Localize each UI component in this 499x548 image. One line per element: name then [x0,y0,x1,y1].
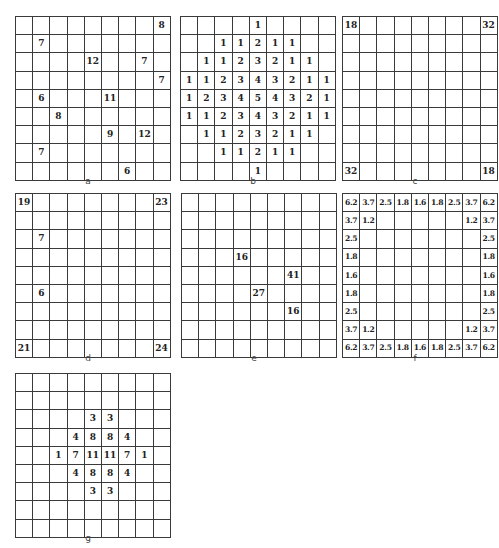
grid-cell: 2 [232,53,249,71]
grid-cell [153,464,170,482]
grid-cell [33,266,50,284]
grid-panel-a: 871277611891276 [15,16,171,181]
grid-cell [136,374,153,392]
grid-cell [480,126,497,144]
grid-cell: 2 [284,107,301,125]
grid-cell [233,321,250,339]
grid-cell [33,17,50,35]
grid-cell: 1 [284,35,301,53]
grid-row: 7 [16,144,171,162]
grid-cell [267,230,284,248]
grid-cell [33,53,50,71]
grid-cell: 2.5 [343,230,360,248]
grid-cell [119,410,136,428]
grid-cell [360,303,377,321]
grid-cell [446,71,463,89]
grid-cell: 23 [153,194,170,212]
grid-cell [302,321,319,339]
panel-label-f: f [342,353,488,363]
grid-cell [101,248,118,266]
grid-row: 4884 [16,464,171,482]
panel-label-c: c [342,176,488,186]
grid-cell [343,126,360,144]
grid-cell [50,501,67,519]
grid-cell [16,35,33,53]
grid-cell [216,266,233,284]
grid-cell [394,35,411,53]
grid-cell [411,321,428,339]
grid-cell: 3 [101,483,118,501]
grid-cell [233,230,250,248]
grid-cell [67,35,84,53]
grid-cell [84,303,101,321]
grid-cell [428,17,445,35]
grid-cell [394,212,411,230]
grid-cell [250,212,267,230]
grid-cell [33,392,50,410]
grid-cell [463,248,480,266]
grid-cell [33,194,50,212]
grid-cell: 41 [285,266,302,284]
grid-cell [33,410,50,428]
grid-cell [198,17,215,35]
grid-cell [428,107,445,125]
grid-cell [394,53,411,71]
grid-cell [153,35,170,53]
grid-cell [250,230,267,248]
grid-cell [411,284,428,302]
grid-cell [16,321,33,339]
grid-cell [319,303,336,321]
grid-cell: 1 [284,126,301,144]
grid-cell [119,107,136,125]
grid-cell: 1 [215,144,232,162]
grid-cell [216,284,233,302]
grid-row: 11211 [181,144,336,162]
grid-cell: 2.5 [480,230,497,248]
grid-cell [215,17,232,35]
grid-cell [16,392,33,410]
grid-cell [216,248,233,266]
grid-cell [360,284,377,302]
grid-cell [199,321,216,339]
grid-row: 3.71.21.23.7 [343,321,498,339]
grid-cell [50,321,67,339]
grid-cell: 1 [215,126,232,144]
grid-cell [16,107,33,125]
grid-cell [394,321,411,339]
grid-cell [153,89,170,107]
grid-cell [301,35,318,53]
grid-row: 6.23.72.51.81.61.82.53.76.2 [343,194,498,212]
grid-row: 7 [16,230,171,248]
grid-cell: 1.8 [394,194,411,212]
grid-cell [394,230,411,248]
grid-cell [16,266,33,284]
grid-row [343,89,498,107]
grid-row [343,71,498,89]
grid-row [343,107,498,125]
grid-cell [411,17,428,35]
grid-cell [319,230,336,248]
grid-cell [50,194,67,212]
grid-cell: 18 [343,17,360,35]
grid-cell [319,284,336,302]
grid-cell [233,284,250,302]
grid-cell: 1 [266,144,283,162]
grid-cell [343,89,360,107]
grid-cell [285,212,302,230]
grid-cell [377,321,394,339]
grid-row [16,248,171,266]
grid-cell [199,284,216,302]
grid-cell: 3 [101,410,118,428]
grid-cell [319,194,336,212]
grid-d: 1923762124 [15,193,171,358]
grid-cell [463,89,480,107]
grid-cell: 7 [136,53,153,71]
grid-cell: 32 [480,17,497,35]
grid-row: 1.61.6 [343,266,498,284]
grid-cell: 3 [249,53,266,71]
grid-cell [50,212,67,230]
grid-cell [394,126,411,144]
grid-cell [67,194,84,212]
grid-cell [302,303,319,321]
grid-cell [67,212,84,230]
